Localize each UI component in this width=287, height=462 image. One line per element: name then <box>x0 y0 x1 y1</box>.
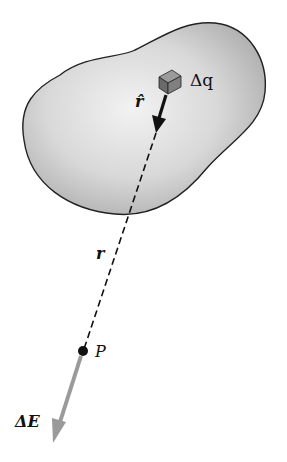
point-label: P <box>95 342 106 361</box>
charge-element-label: Δq <box>190 70 213 90</box>
field-label: ΔE <box>15 412 40 431</box>
diagram-canvas <box>0 0 287 462</box>
distance-label: r <box>96 244 104 263</box>
unit-vector-label: r̂ <box>135 92 143 111</box>
field-point-dot <box>78 346 88 356</box>
charge-distribution-blob <box>23 23 266 215</box>
field-vector-arrow-icon <box>52 356 81 443</box>
